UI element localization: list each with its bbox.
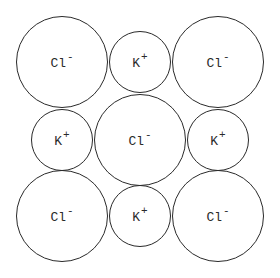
chloride-ion-bottom-right: Cl- [172,170,264,262]
ion-label: Cl- [50,208,73,224]
ion-label: K+ [132,208,147,224]
kcl-lattice-diagram: Cl- K+ Cl- K+ Cl- K+ Cl- K+ Cl- [0,0,280,278]
potassium-ion-middle-left: K+ [31,109,93,171]
potassium-ion-bottom-center: K+ [109,185,171,247]
chloride-ion-top-right: Cl- [172,16,264,108]
ion-label: Cl- [206,54,229,70]
potassium-ion-middle-right: K+ [187,109,249,171]
ion-label: Cl- [128,132,151,148]
ion-label: K+ [210,132,225,148]
chloride-ion-bottom-left: Cl- [16,170,108,262]
ion-label: Cl- [50,54,73,70]
ion-label: K+ [132,54,147,70]
chloride-ion-center: Cl- [94,94,186,186]
chloride-ion-top-left: Cl- [16,16,108,108]
potassium-ion-top-center: K+ [109,31,171,93]
ion-label: Cl- [206,208,229,224]
ion-label: K+ [54,132,69,148]
